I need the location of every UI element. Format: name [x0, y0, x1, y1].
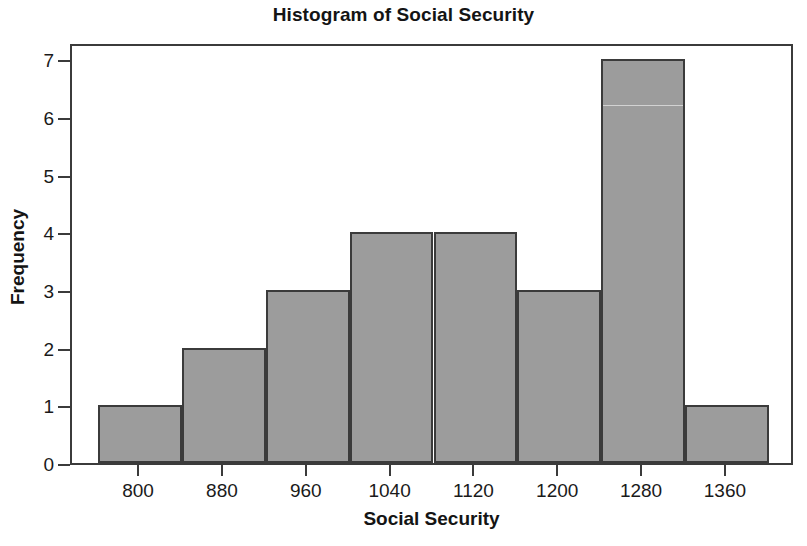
y-axis-tick: [58, 406, 70, 408]
x-axis-tick: [556, 465, 558, 476]
histogram-bar: [182, 348, 266, 463]
histogram-bar: [601, 59, 685, 463]
x-axis-tick-label: 800: [98, 480, 178, 502]
histogram-figure: Histogram of Social Security Frequency 0…: [0, 0, 807, 546]
x-axis-tick-label: 1040: [350, 480, 430, 502]
histogram-bar: [98, 405, 182, 463]
x-axis-tick: [389, 465, 391, 476]
x-axis-tick-label: 1200: [517, 480, 597, 502]
y-axis-tick-label: 2: [16, 340, 54, 359]
y-axis-tick: [58, 176, 70, 178]
y-axis-tick-label: 3: [16, 282, 54, 301]
x-axis-tick: [305, 465, 307, 476]
plot-area: [70, 44, 793, 465]
x-axis-tick: [221, 465, 223, 476]
histogram-bar: [517, 290, 601, 463]
x-axis-tick: [640, 465, 642, 476]
x-axis-tick: [724, 465, 726, 476]
histogram-bars: [72, 46, 791, 463]
y-axis-tick-label: 0: [16, 455, 54, 474]
y-axis-tick-label: 4: [16, 224, 54, 243]
y-axis-tick: [58, 291, 70, 293]
x-axis-title: Social Security: [70, 508, 793, 530]
y-axis-tick: [58, 464, 70, 466]
y-axis-tick: [58, 118, 70, 120]
y-axis-tick-label: 5: [16, 167, 54, 186]
histogram-bar: [266, 290, 350, 463]
y-axis-tick: [58, 349, 70, 351]
x-axis-tick-label: 1360: [685, 480, 765, 502]
x-axis-tick-label: 880: [182, 480, 262, 502]
y-axis-tick: [58, 60, 70, 62]
y-axis-tick-label: 7: [16, 51, 54, 70]
histogram-bar: [434, 232, 518, 463]
x-axis-tick-label: 1280: [601, 480, 681, 502]
x-axis-tick-label: 960: [266, 480, 346, 502]
histogram-bar: [685, 405, 769, 463]
x-axis-tick: [137, 465, 139, 476]
chart-title: Histogram of Social Security: [0, 4, 807, 26]
x-axis-tick-label: 1120: [433, 480, 513, 502]
y-axis-tick: [58, 233, 70, 235]
histogram-bar: [350, 232, 434, 463]
y-axis-tick-label: 6: [16, 109, 54, 128]
x-axis-tick: [472, 465, 474, 476]
y-axis-tick-label: 1: [16, 397, 54, 416]
